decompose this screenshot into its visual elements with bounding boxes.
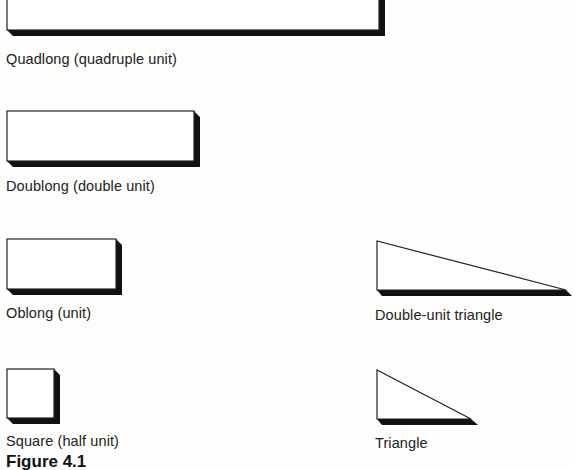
doublong-label: Doublong (double unit) xyxy=(6,178,155,195)
doublong-block-shape xyxy=(7,111,200,167)
oblong-label: Oblong (unit) xyxy=(6,305,91,322)
double-unit-triangle-shape xyxy=(377,241,572,296)
block-shapes-figure xyxy=(0,0,575,470)
oblong-block-shape xyxy=(7,239,122,295)
square-label: Square (half unit) xyxy=(6,433,119,450)
triangle-label: Triangle xyxy=(375,435,428,452)
quadlong-block-shape xyxy=(7,0,385,36)
quadlong-label: Quadlong (quadruple unit) xyxy=(6,51,177,68)
figure-caption: Figure 4.1 xyxy=(6,452,86,470)
triangle-shape xyxy=(377,370,478,425)
square-block-shape xyxy=(7,369,60,424)
double-unit-triangle-label: Double-unit triangle xyxy=(375,307,503,324)
